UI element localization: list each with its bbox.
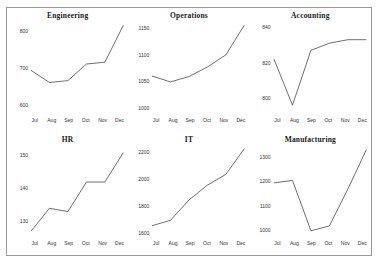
plot-area: 130140150 <box>31 146 123 235</box>
y-axis-tick-label: 820 <box>262 60 270 66</box>
y-axis-tick-label: 150 <box>20 152 28 158</box>
series-plot <box>274 146 366 235</box>
x-axis-tick-label: Oct <box>203 240 211 246</box>
chart-panel-manufacturing: Manufacturing1000110012001300JulAugSepOc… <box>250 132 371 256</box>
chart-panel-accounting: Accounting800820840JulAugSepOctNovDec <box>250 8 371 132</box>
panel-title: HR <box>7 135 128 144</box>
data-series-line <box>31 25 123 82</box>
x-axis-tick-row: JulAugSepOctNovDec <box>272 240 368 249</box>
y-axis-tick-label: 800 <box>20 28 28 34</box>
x-axis-tick-label: Jul <box>32 240 38 246</box>
y-axis-tick-label: 1100 <box>260 203 271 209</box>
chart-panel-hr: HR130140150JulAugSepOctNovDec <box>7 132 128 256</box>
plot-area: 1600180020002200 <box>152 146 244 235</box>
x-axis-tick-label: Aug <box>169 240 178 246</box>
y-axis-tick-label: 1600 <box>138 230 149 236</box>
data-series-line <box>274 149 366 230</box>
plot-area: 600700800 <box>31 22 123 111</box>
x-axis-tick-label: Sep <box>186 240 195 246</box>
x-axis-tick-label: Dec <box>236 117 245 123</box>
x-axis-tick-label: Sep <box>64 117 73 123</box>
x-axis-tick-label: Aug <box>47 240 56 246</box>
series-plot <box>274 22 366 111</box>
y-axis-tick-label: 600 <box>20 102 28 108</box>
y-axis-tick-label: 140 <box>20 185 28 191</box>
panel-title: IT <box>128 135 249 144</box>
data-series-line <box>31 152 123 231</box>
x-axis-tick-label: Jul <box>32 117 38 123</box>
x-axis-tick-row: JulAugSepOctNovDec <box>29 117 125 126</box>
x-axis-tick-label: Jul <box>153 117 159 123</box>
x-axis-tick-label: Jul <box>153 240 159 246</box>
chart-panel-engineering: Engineering600700800JulAugSepOctNovDec <box>7 8 128 132</box>
x-axis-tick-row: JulAugSepOctNovDec <box>272 117 368 126</box>
y-axis-tick-label: 800 <box>262 95 270 101</box>
x-axis-tick-label: Nov <box>341 240 350 246</box>
x-axis-tick-label: Oct <box>82 117 90 123</box>
y-axis-tick-label: 1200 <box>260 178 271 184</box>
y-axis-tick-label: 700 <box>20 65 28 71</box>
x-axis-tick-row: JulAugSepOctNovDec <box>150 240 246 249</box>
x-axis-tick-label: Sep <box>186 117 195 123</box>
data-series-line <box>274 40 366 105</box>
x-axis-tick-label: Aug <box>47 117 56 123</box>
data-series-line <box>152 148 244 225</box>
x-axis-tick-label: Aug <box>290 117 299 123</box>
y-axis-tick-label: 2200 <box>138 149 149 155</box>
x-axis-tick-label: Oct <box>324 240 332 246</box>
y-axis-tick-label: 840 <box>262 24 270 30</box>
y-axis-tick-label: 130 <box>20 218 28 224</box>
plot-area: 1000105011001150 <box>152 22 244 111</box>
x-axis-tick-label: Oct <box>324 117 332 123</box>
x-axis-tick-label: Dec <box>115 240 124 246</box>
x-axis-tick-label: Sep <box>64 240 73 246</box>
series-plot <box>152 146 244 235</box>
x-axis-tick-label: Sep <box>307 240 316 246</box>
series-plot <box>31 22 123 111</box>
series-plot <box>152 22 244 111</box>
x-axis-tick-label: Aug <box>169 117 178 123</box>
y-axis-tick-label: 2000 <box>138 176 149 182</box>
y-axis-tick-label: 1000 <box>138 105 149 111</box>
y-axis-tick-label: 1050 <box>138 78 149 84</box>
chart-panel-it: IT1600180020002200JulAugSepOctNovDec <box>128 132 249 256</box>
y-axis-tick-label: 1300 <box>260 154 271 160</box>
y-axis-tick-label: 1800 <box>138 203 149 209</box>
x-axis-tick-label: Dec <box>236 240 245 246</box>
panel-title: Operations <box>128 11 249 20</box>
panel-title: Accounting <box>250 11 371 20</box>
x-axis-tick-label: Aug <box>290 240 299 246</box>
panel-title: Engineering <box>7 11 128 20</box>
x-axis-tick-label: Dec <box>358 117 367 123</box>
chart-panel-operations: Operations1000105011001150JulAugSepOctNo… <box>128 8 249 132</box>
x-axis-tick-row: JulAugSepOctNovDec <box>29 240 125 249</box>
x-axis-tick-label: Nov <box>219 240 228 246</box>
x-axis-tick-label: Dec <box>358 240 367 246</box>
data-series-line <box>152 25 244 82</box>
x-axis-tick-label: Nov <box>98 240 107 246</box>
series-plot <box>31 146 123 235</box>
x-axis-tick-label: Oct <box>203 117 211 123</box>
x-axis-tick-label: Jul <box>274 240 280 246</box>
y-axis-tick-label: 1000 <box>260 227 271 233</box>
plot-area: 800820840 <box>274 22 366 111</box>
x-axis-tick-label: Nov <box>219 117 228 123</box>
x-axis-tick-label: Dec <box>115 117 124 123</box>
x-axis-tick-label: Nov <box>341 117 350 123</box>
x-axis-tick-label: Jul <box>274 117 280 123</box>
x-axis-tick-row: JulAugSepOctNovDec <box>150 117 246 126</box>
x-axis-tick-label: Sep <box>307 117 316 123</box>
figure-frame: Engineering600700800JulAugSepOctNovDecOp… <box>6 7 372 256</box>
panel-title: Manufacturing <box>250 135 371 144</box>
panel-grid: Engineering600700800JulAugSepOctNovDecOp… <box>7 8 371 255</box>
y-axis-tick-label: 1100 <box>139 52 150 58</box>
x-axis-tick-label: Oct <box>82 240 90 246</box>
x-axis-tick-label: Nov <box>98 117 107 123</box>
y-axis-tick-label: 1150 <box>139 25 150 31</box>
plot-area: 1000110012001300 <box>274 146 366 235</box>
